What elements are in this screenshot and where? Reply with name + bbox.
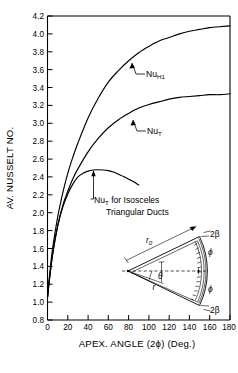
beta-top-label: 2β [210, 229, 220, 239]
apex-dot [127, 270, 130, 273]
x-tick-label: 100 [142, 323, 156, 332]
y-tick-label: 3.6 [33, 66, 45, 75]
phi-top-label: ϕ [208, 247, 213, 257]
y-tick-label: 3.8 [33, 48, 45, 57]
beta-bottom-label: 2β [210, 305, 220, 315]
y-tick-label: 1.8 [33, 227, 45, 236]
plot-frame [48, 16, 231, 320]
y-tick-label: 3.2 [33, 101, 45, 110]
y-tick-label: 4.0 [33, 30, 45, 39]
y-tick-label: 3.4 [33, 84, 45, 93]
beta-top-dimension [201, 231, 211, 237]
beta-bottom-dimension [201, 306, 211, 312]
nu-h1-label: NuH1 [146, 69, 165, 80]
y-tick-label: 1.4 [33, 262, 45, 271]
circular-sector-duct-diagram: r0 2β 2β ϕ ϕ θ r [122, 226, 220, 315]
x-axis-ticks [48, 315, 231, 320]
nu-t-annotation: NuT [130, 120, 162, 137]
y-tick-label: 1.6 [33, 245, 45, 254]
phi-bottom-label: ϕ [208, 284, 213, 294]
x-axis-title: APEX. ANGLE (2ϕ) (Deg.) [79, 338, 196, 349]
r0-dimension [124, 226, 196, 263]
nu-t-isosceles-label-line2: Triangular Ducts [106, 207, 169, 217]
y-tick-label: 2.4 [33, 173, 45, 182]
theta-label: θ [158, 271, 163, 281]
x-tick-label: 60 [104, 323, 114, 332]
y-tick-label: 2.8 [33, 137, 45, 146]
x-tick-label: 120 [162, 323, 176, 332]
radius-dot [197, 270, 199, 272]
nu-t-isosceles-label-line1: NuT for Isosceles [94, 195, 159, 206]
y-axis-tick-labels: 4.2 4.0 3.8 3.6 3.4 3.2 3.0 2.8 2.6 2.4 … [33, 12, 45, 325]
y-tick-label: 3.0 [33, 119, 45, 128]
nu-t-isosceles-annotation: NuT for Isosceles Triangular Ducts [91, 170, 169, 217]
x-tick-label: 80 [124, 323, 134, 332]
y-tick-label: 1.0 [33, 298, 45, 307]
x-tick-label: 140 [183, 323, 197, 332]
x-tick-label: 160 [203, 323, 217, 332]
y-tick-label: 2.0 [33, 209, 45, 218]
nusselt-number-chart: 4.2 4.0 3.8 3.6 3.4 3.2 3.0 2.8 2.6 2.4 … [0, 0, 238, 373]
nu-t-label: NuT [147, 126, 162, 137]
figure-container: 4.2 4.0 3.8 3.6 3.4 3.2 3.0 2.8 2.6 2.4 … [0, 0, 238, 373]
x-tick-label: 0 [45, 323, 50, 332]
y-tick-label: 0.8 [33, 316, 45, 325]
r0-label: r0 [146, 235, 153, 246]
y-tick-label: 1.2 [33, 280, 45, 289]
y-tick-label: 4.2 [33, 12, 45, 21]
y-tick-label: 2.2 [33, 191, 45, 200]
y-tick-label: 2.6 [33, 155, 45, 164]
x-tick-label: 40 [84, 323, 94, 332]
x-tick-label: 20 [63, 323, 73, 332]
x-axis-tick-labels: 0 20 40 60 80 100 120 140 160 180 [45, 323, 236, 332]
x-tick-label: 180 [222, 323, 236, 332]
y-axis-title: AV. NUSSELT NO. [4, 127, 15, 210]
nu-h1-annotation: NuH1 [129, 63, 165, 80]
